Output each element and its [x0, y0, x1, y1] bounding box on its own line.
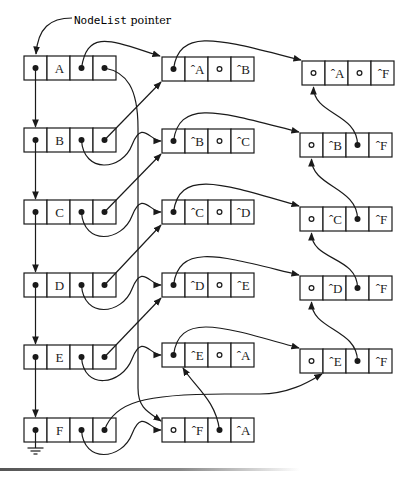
node-C: C	[24, 200, 116, 224]
cell-label: ˆF	[376, 212, 388, 227]
cell-label: ˆF	[376, 138, 388, 153]
null-marker-icon	[217, 139, 222, 144]
null-marker-icon	[217, 283, 222, 288]
null-marker-icon	[217, 353, 222, 358]
cell-label: ˆC	[237, 134, 250, 149]
cell-label: ˆA	[237, 423, 251, 438]
cell-label: D	[55, 278, 64, 293]
cell-label: E	[56, 350, 64, 365]
arc-E-right: ˆEˆF	[300, 349, 392, 373]
nodelist-pointer-arrow	[36, 18, 72, 54]
arc-B-right: ˆBˆF	[300, 133, 392, 157]
null-marker-icon	[309, 217, 314, 222]
cell-label: ˆB	[329, 138, 342, 153]
null-marker-icon	[171, 428, 176, 433]
cell-label: ˆE	[191, 348, 203, 363]
cell-label: F	[56, 423, 63, 438]
node-B: B	[24, 128, 116, 152]
cell-label: ˆA	[331, 66, 345, 81]
node-A: A	[24, 56, 116, 80]
cell-label: ˆF	[192, 423, 204, 438]
cell-label: ˆD	[329, 281, 343, 296]
arc-A-right: ˆAˆF	[302, 61, 394, 85]
inarcs-arrow	[105, 298, 162, 357]
cell-label: ˆA	[191, 62, 205, 77]
cell-label: ˆC	[329, 212, 342, 227]
cell-label: ˆF	[376, 354, 388, 369]
cell-label: ˆE	[329, 354, 341, 369]
cell-label: ˆB	[191, 134, 204, 149]
arc-D-right: ˆDˆF	[300, 276, 392, 300]
arc-F-middle: ˆFˆA	[162, 418, 254, 442]
cell-label: ˆD	[191, 278, 205, 293]
cell-label: ˆD	[237, 205, 251, 220]
node-F: F	[24, 418, 116, 442]
cell-label: ˆE	[237, 278, 249, 293]
cell-label: ˆF	[378, 66, 390, 81]
null-marker-icon	[217, 210, 222, 215]
inarcs-arrow	[105, 154, 162, 212]
cell-label: ˆA	[237, 348, 251, 363]
inarcs-arrow	[105, 225, 162, 285]
null-marker-icon	[311, 71, 316, 76]
cell-label: C	[55, 205, 64, 220]
null-marker-icon	[309, 359, 314, 364]
null-marker-icon	[357, 71, 362, 76]
null-marker-icon	[309, 143, 314, 148]
page-bottom-rule	[0, 468, 300, 471]
cell-label: ˆC	[191, 205, 204, 220]
arc-C-right: ˆCˆF	[300, 207, 392, 231]
cell-label: ˆF	[376, 281, 388, 296]
null-marker-icon	[217, 67, 222, 72]
cell-label: ˆB	[237, 62, 250, 77]
null-marker-icon	[309, 286, 314, 291]
cell-label: A	[55, 61, 65, 76]
nodelist-pointer-label: NodeList pointer	[74, 14, 172, 27]
node-E: E	[24, 345, 116, 369]
cell-label: B	[55, 133, 64, 148]
node-D: D	[24, 273, 116, 297]
nodelist-diagram: NodeList pointer ABCDEFˆAˆBˆBˆCˆCˆDˆDˆEˆ…	[0, 0, 413, 480]
